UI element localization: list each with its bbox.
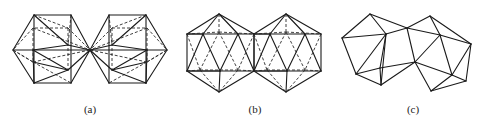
hidden-edge bbox=[200, 32, 219, 70]
visible-edge bbox=[342, 34, 386, 38]
visible-edge bbox=[112, 50, 147, 70]
visible-edge bbox=[33, 50, 68, 70]
visible-edge bbox=[440, 35, 452, 75]
visible-edge bbox=[219, 71, 220, 92]
hidden-edge bbox=[187, 34, 200, 70]
visible-edge bbox=[342, 14, 370, 38]
visible-edge bbox=[33, 45, 68, 50]
hidden-edge bbox=[13, 28, 33, 50]
visible-edge bbox=[13, 15, 34, 50]
visible-edge bbox=[452, 75, 466, 81]
visible-edge bbox=[407, 28, 415, 62]
caption-b: (b) bbox=[249, 103, 262, 116]
visible-edge bbox=[356, 74, 381, 85]
visible-edge bbox=[219, 14, 254, 34]
caption-a: (a) bbox=[84, 103, 97, 116]
visible-edge bbox=[286, 14, 305, 34]
visible-edge bbox=[187, 14, 219, 34]
visible-edge bbox=[90, 50, 109, 83]
visible-edge bbox=[431, 75, 452, 91]
visible-edge bbox=[286, 14, 321, 34]
visible-edge bbox=[270, 34, 287, 71]
visible-edge bbox=[270, 14, 286, 34]
panel-c-face-sharing-icosahedra bbox=[342, 14, 471, 91]
panel-b-edge-sharing-icosahedra bbox=[187, 14, 321, 92]
visible-edge bbox=[254, 14, 286, 34]
hidden-edge bbox=[286, 32, 305, 70]
visible-edge bbox=[71, 15, 90, 50]
visible-edge bbox=[71, 50, 90, 83]
visible-edge bbox=[431, 81, 466, 91]
visible-edge bbox=[386, 28, 407, 34]
hidden-edge bbox=[109, 62, 147, 83]
hidden-edge bbox=[254, 34, 267, 70]
visible-edge bbox=[415, 35, 440, 62]
hidden-edge bbox=[34, 15, 68, 28]
hidden-edge bbox=[90, 50, 147, 62]
visible-edge bbox=[146, 15, 167, 50]
visible-edge bbox=[146, 50, 167, 83]
hidden-edge bbox=[219, 32, 238, 70]
figure-canvas: (a) (b) (c) bbox=[0, 0, 480, 128]
visible-edge bbox=[286, 71, 287, 92]
visible-edge bbox=[407, 16, 430, 28]
visible-edge bbox=[342, 38, 356, 74]
hidden-edge bbox=[147, 28, 167, 50]
caption-c: (c) bbox=[407, 103, 420, 116]
visible-edge bbox=[203, 34, 220, 71]
hidden-edge bbox=[33, 28, 90, 50]
hidden-edge bbox=[219, 70, 238, 92]
visible-edge bbox=[466, 44, 471, 81]
visible-edge bbox=[112, 45, 147, 50]
hidden-edge bbox=[33, 50, 90, 62]
hidden-edge bbox=[13, 50, 33, 62]
visible-edge bbox=[407, 28, 440, 35]
hidden-edge bbox=[286, 70, 305, 92]
visible-edge bbox=[203, 14, 219, 34]
hidden-edge bbox=[112, 15, 146, 28]
visible-edge bbox=[13, 50, 34, 83]
visible-edge bbox=[452, 44, 471, 75]
visible-edge bbox=[219, 14, 238, 34]
hidden-edge bbox=[267, 32, 286, 70]
visible-edge bbox=[33, 62, 68, 70]
hidden-edge bbox=[147, 50, 167, 62]
visible-edge bbox=[112, 62, 147, 70]
hidden-edge bbox=[90, 28, 147, 50]
hidden-edge bbox=[33, 62, 71, 83]
visible-edge bbox=[219, 71, 254, 92]
visible-edge bbox=[90, 15, 109, 50]
visible-edge bbox=[286, 71, 321, 92]
visible-edge bbox=[440, 35, 471, 44]
panel-a-vertex-sharing-icosahedra bbox=[13, 15, 167, 83]
